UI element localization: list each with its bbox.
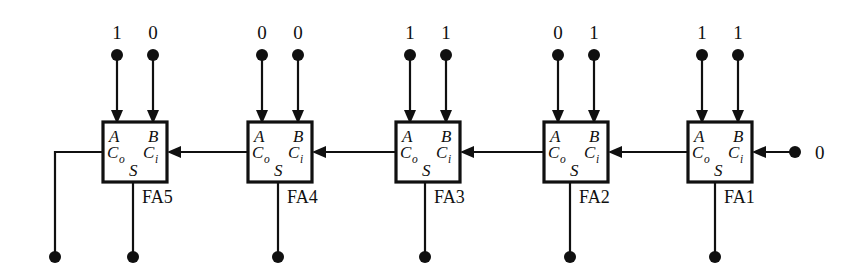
port-label-ci-fa4: C xyxy=(288,143,300,162)
port-sublabel-co-fa3: o xyxy=(412,153,418,165)
port-label-ci-fa3: C xyxy=(436,143,448,162)
port-sublabel-co-fa4: o xyxy=(264,153,270,165)
input-value-a-fa5: 1 xyxy=(112,22,122,43)
port-sublabel-co-fa2: o xyxy=(560,153,566,165)
input-value-b-fa3: 1 xyxy=(441,22,451,43)
input-terminal-a-fa3[interactable] xyxy=(404,49,416,61)
carry-in-source: 0 xyxy=(752,142,825,163)
final-carry-out-path xyxy=(49,152,103,263)
port-label-s-fa5: S xyxy=(129,161,138,180)
sum-terminal-fa1[interactable] xyxy=(709,251,721,263)
sum-terminal-fa4[interactable] xyxy=(272,251,284,263)
input-value-a-fa4: 0 xyxy=(257,22,267,43)
carry-wire-fa2-to-fa3 xyxy=(460,146,544,158)
final-carry-out-wire xyxy=(55,152,103,257)
carry-in-value-fa1: 0 xyxy=(815,142,825,163)
input-value-a-fa3: 1 xyxy=(405,22,415,43)
input-terminal-b-fa2[interactable] xyxy=(588,49,600,61)
ripple-carry-adder-svg: 1 0 A B C o C i S FA5 0 xyxy=(0,0,850,279)
carry-arrow-fa1-fa2 xyxy=(608,146,622,158)
block-label-fa2: FA2 xyxy=(579,187,610,207)
port-label-co-fa2: C xyxy=(548,143,560,162)
sum-terminal-fa5[interactable] xyxy=(127,251,139,263)
full-adder-block-fa1[interactable]: 1 1 A B C o C i S FA1 xyxy=(688,22,755,263)
port-label-s-fa2: S xyxy=(570,161,579,180)
sum-terminal-fa2[interactable] xyxy=(564,251,576,263)
port-label-ci-fa5: C xyxy=(143,143,155,162)
input-terminal-a-fa1[interactable] xyxy=(696,49,708,61)
carry-wire-fa1-to-fa2 xyxy=(608,146,688,158)
full-adder-block-fa5[interactable]: 1 0 A B C o C i S FA5 xyxy=(103,22,173,263)
input-value-b-fa1: 1 xyxy=(733,22,743,43)
full-adder-block-fa3[interactable]: 1 1 A B C o C i S FA3 xyxy=(396,22,465,263)
carry-wire-fa4-to-fa5 xyxy=(167,146,248,158)
sum-terminal-fa3[interactable] xyxy=(419,251,431,263)
port-sublabel-ci-fa1: i xyxy=(740,153,743,165)
input-terminal-b-fa4[interactable] xyxy=(292,49,304,61)
final-carry-out-terminal[interactable] xyxy=(49,251,61,263)
port-sublabel-ci-fa2: i xyxy=(596,153,599,165)
port-label-s-fa3: S xyxy=(422,161,431,180)
carry-arrow-fa4-fa5 xyxy=(167,146,181,158)
full-adder-block-fa2[interactable]: 0 1 A B C o C i S FA2 xyxy=(544,22,610,263)
circuit-diagram-canvas: 1 0 A B C o C i S FA5 0 xyxy=(0,0,850,279)
input-value-b-fa4: 0 xyxy=(293,22,303,43)
port-sublabel-co-fa5: o xyxy=(119,153,125,165)
carry-in-terminal-fa1[interactable] xyxy=(789,146,801,158)
port-label-co-fa5: C xyxy=(107,143,119,162)
input-terminal-b-fa5[interactable] xyxy=(147,49,159,61)
input-value-a-fa1: 1 xyxy=(697,22,707,43)
port-label-co-fa4: C xyxy=(252,143,264,162)
carry-arrow-fa2-fa3 xyxy=(460,146,474,158)
port-label-ci-fa2: C xyxy=(584,143,596,162)
port-label-co-fa1: C xyxy=(692,143,704,162)
carry-arrow-fa3-fa4 xyxy=(312,146,326,158)
block-label-fa4: FA4 xyxy=(287,187,318,207)
input-terminal-b-fa3[interactable] xyxy=(440,49,452,61)
port-label-ci-fa1: C xyxy=(728,143,740,162)
carry-in-arrow-fa1 xyxy=(752,146,766,158)
port-sublabel-co-fa1: o xyxy=(704,153,710,165)
block-label-fa1: FA1 xyxy=(724,187,755,207)
input-terminal-b-fa1[interactable] xyxy=(732,49,744,61)
block-label-fa3: FA3 xyxy=(434,187,465,207)
input-value-b-fa5: 0 xyxy=(148,22,158,43)
full-adder-block-fa4[interactable]: 0 0 A B C o C i S FA4 xyxy=(248,22,318,263)
port-sublabel-ci-fa5: i xyxy=(155,153,158,165)
input-terminal-a-fa4[interactable] xyxy=(256,49,268,61)
port-label-s-fa4: S xyxy=(274,161,283,180)
port-sublabel-ci-fa4: i xyxy=(300,153,303,165)
input-terminal-a-fa2[interactable] xyxy=(552,49,564,61)
input-terminal-a-fa5[interactable] xyxy=(111,49,123,61)
input-value-b-fa2: 1 xyxy=(589,22,599,43)
block-label-fa5: FA5 xyxy=(142,187,173,207)
carry-wire-fa3-to-fa4 xyxy=(312,146,396,158)
input-value-a-fa2: 0 xyxy=(553,22,563,43)
port-label-co-fa3: C xyxy=(400,143,412,162)
port-sublabel-ci-fa3: i xyxy=(448,153,451,165)
port-label-s-fa1: S xyxy=(714,161,723,180)
